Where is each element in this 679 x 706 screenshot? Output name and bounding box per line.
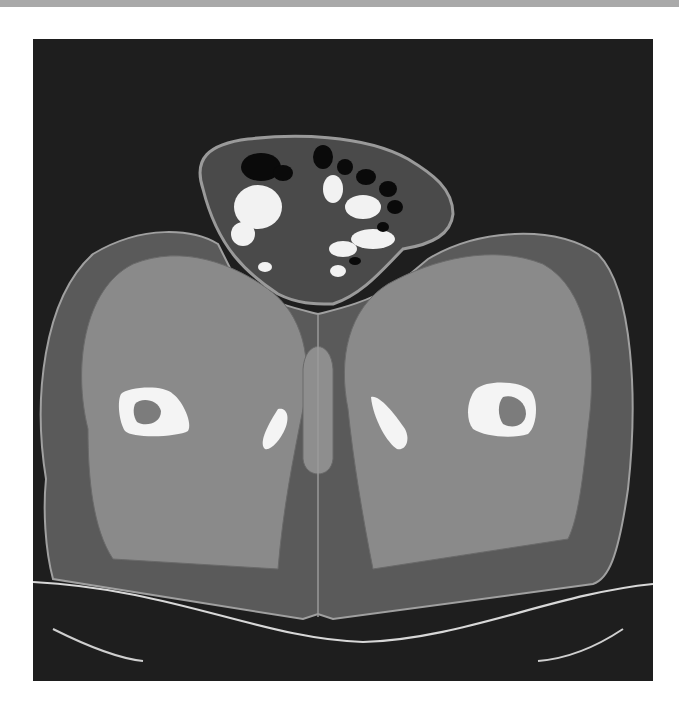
contrast-loop (323, 175, 343, 203)
gas-pocket (349, 257, 361, 265)
gas-pocket (356, 169, 376, 185)
contrast-loop (231, 222, 255, 246)
gas-pocket (337, 159, 353, 175)
gas-pocket (377, 222, 389, 232)
ct-scan-svg (33, 39, 653, 681)
contrast-loop (345, 195, 381, 219)
scanner-table-lower (53, 629, 623, 661)
top-gray-band (0, 0, 679, 7)
contrast-loop (329, 241, 357, 257)
gas-pocket (273, 165, 293, 181)
contrast-loop (258, 262, 272, 272)
contrast-loop (351, 229, 395, 249)
gas-pocket (387, 200, 403, 214)
contrast-loop (330, 265, 346, 277)
left-thigh-muscle (82, 256, 307, 569)
ct-scan-image (33, 39, 653, 681)
gas-pocket (379, 181, 397, 197)
gas-pocket (313, 145, 333, 169)
